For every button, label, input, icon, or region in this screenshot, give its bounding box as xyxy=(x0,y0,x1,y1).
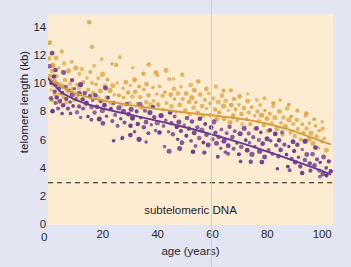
trendline-orange-population xyxy=(48,77,330,144)
x-tick-20: 20 xyxy=(83,228,123,240)
chart-figure: subtelomeric DNA 02468101214 20406080100… xyxy=(0,0,351,267)
x-axis-title: age (years) xyxy=(48,245,333,257)
scatter-plot-svg xyxy=(48,14,333,225)
x-tick-40: 40 xyxy=(138,228,178,240)
x-tick-60: 60 xyxy=(192,228,232,240)
x-tick-80: 80 xyxy=(247,228,287,240)
series-orange-population xyxy=(48,20,329,153)
x-axis-ticks: 20406080100 xyxy=(48,228,333,244)
x-axis-origin-tick: 0 xyxy=(41,231,47,243)
y-axis-title: telomere length (kb) xyxy=(18,22,30,182)
y-tick-2: 2 xyxy=(24,191,46,202)
y-tick-0: 0 xyxy=(24,219,46,230)
subtelomeric-dna-label: subtelomeric DNA xyxy=(48,204,333,216)
plot-area: subtelomeric DNA xyxy=(48,14,333,225)
x-tick-100: 100 xyxy=(302,228,342,240)
